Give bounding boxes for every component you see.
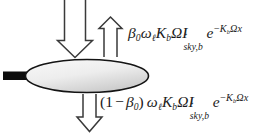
down-arrow-icon: ↓: [189, 95, 195, 106]
extinction-coefficient-symbol: K: [156, 24, 166, 41]
exponent-group: −KbΩx: [214, 23, 242, 34]
exponent-x: x: [237, 23, 242, 34]
irradiance-subscript: sky,b: [190, 111, 209, 121]
irradiance-subscript: sky,b: [184, 42, 203, 52]
big-omega-symbol: Ω: [177, 93, 188, 110]
incident-radiation-arrow: [58, 0, 93, 58]
leaf-ellipse: [26, 60, 149, 93]
close-paren: ): [139, 93, 144, 110]
beta-symbol: β: [126, 93, 134, 110]
exponent-omega: Ω: [236, 92, 244, 103]
omega-symbol: ω: [147, 93, 158, 110]
minus-operator: −: [115, 93, 124, 110]
extinction-coefficient-symbol: K: [162, 93, 172, 110]
big-omega-symbol: Ω: [171, 24, 182, 41]
omega-symbol: ω: [141, 24, 152, 41]
exponent-group: −KbΩx: [220, 92, 248, 103]
exponential-symbol: e: [207, 24, 214, 41]
exponent-x: x: [244, 92, 249, 103]
transmitted-radiation-arrow: [77, 94, 102, 132]
exponential-symbol: e: [213, 93, 220, 110]
transmitted-flux-formula: (1−β0)ωℓKbΩI↓sky,be−KbΩx: [100, 93, 248, 112]
diagram-canvas: β0ωℓKbΩI↓sky,be−KbΩx (1−β0)ωℓKbΩI↓sky,be…: [0, 0, 277, 139]
reflected-flux-formula: β0ωℓKbΩI↓sky,be−KbΩx: [128, 24, 242, 43]
exponent-K: K: [220, 23, 227, 34]
reflected-radiation-arrow: [99, 17, 122, 57]
beta-symbol: β: [128, 24, 136, 41]
exponent-K: K: [226, 92, 233, 103]
one-literal: 1: [105, 93, 113, 110]
down-arrow-icon: ↓: [183, 26, 189, 37]
diagram-graphics: [0, 0, 277, 139]
